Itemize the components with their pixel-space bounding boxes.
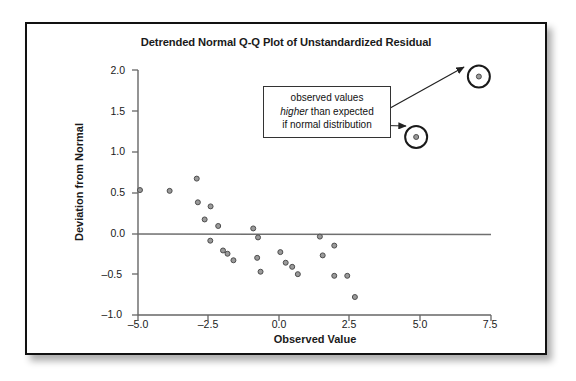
data-point bbox=[195, 200, 200, 205]
data-point bbox=[256, 235, 261, 240]
data-point bbox=[202, 217, 207, 222]
data-point bbox=[352, 295, 357, 300]
figure-frame: Detrended Normal Q-Q Plot of Unstandardi… bbox=[25, 22, 547, 355]
data-point bbox=[295, 272, 300, 277]
data-point bbox=[258, 269, 263, 274]
annotation-line-1: observed values bbox=[269, 91, 385, 105]
reference-line-zero bbox=[138, 234, 491, 235]
data-point bbox=[414, 134, 419, 139]
annotation-line-2-rest: than expected bbox=[308, 106, 374, 117]
data-point bbox=[167, 188, 172, 193]
annotation-callout: observed values higher than expected if … bbox=[263, 86, 391, 138]
data-point bbox=[317, 234, 322, 239]
data-point bbox=[251, 226, 256, 231]
data-point bbox=[290, 264, 295, 269]
data-point bbox=[216, 223, 221, 228]
y-axis-ticks bbox=[132, 70, 138, 315]
data-point bbox=[345, 273, 350, 278]
figure-page: Detrended Normal Q-Q Plot of Unstandardi… bbox=[0, 0, 576, 381]
data-point bbox=[332, 273, 337, 278]
x-axis-ticks bbox=[138, 315, 491, 321]
annotation-line-2: higher than expected bbox=[269, 105, 385, 119]
data-point bbox=[476, 74, 481, 79]
data-point bbox=[208, 204, 213, 209]
data-point bbox=[194, 176, 199, 181]
data-point bbox=[332, 243, 337, 248]
data-point bbox=[225, 251, 230, 256]
data-point bbox=[255, 255, 260, 260]
data-point bbox=[283, 260, 288, 265]
annotation-emphasis: higher bbox=[280, 106, 308, 117]
scatter-plot bbox=[27, 24, 549, 357]
data-point bbox=[231, 258, 236, 263]
data-point bbox=[137, 188, 142, 193]
data-point bbox=[320, 253, 325, 258]
data-point bbox=[221, 248, 226, 253]
data-point bbox=[208, 238, 213, 243]
data-point bbox=[278, 250, 283, 255]
annotation-line-3: if normal distribution bbox=[269, 118, 385, 132]
chart-area: Detrended Normal Q-Q Plot of Unstandardi… bbox=[27, 24, 545, 353]
